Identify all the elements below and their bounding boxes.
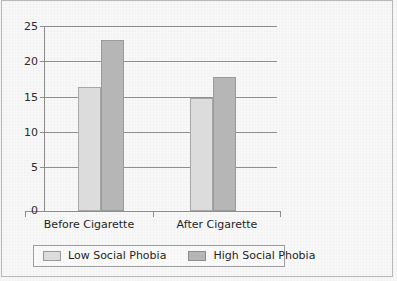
x-tick-mark-right: [280, 212, 281, 217]
bar-after-cigarette-high-social-phobia: [213, 77, 236, 211]
x-tick-mark-middle: [153, 212, 154, 217]
y-tick-label-10: 10: [4, 127, 38, 138]
y-tick-mark-5: [40, 167, 45, 168]
y-tick-label-5: 5: [4, 162, 38, 173]
gridline-25: [44, 26, 277, 27]
bar-before-cigarette-low-social-phobia: [78, 87, 101, 211]
y-tick-label-20: 20: [4, 56, 38, 67]
y-tick-mark-0: [40, 211, 45, 212]
legend-entry-high-social-phobia: High Social Phobia: [188, 250, 315, 262]
bar-before-cigarette-high-social-phobia: [101, 40, 124, 211]
y-tick-mark-20: [40, 61, 45, 62]
y-tick-mark-10: [40, 132, 45, 133]
y-tick-label-15: 15: [4, 92, 38, 103]
y-tick-mark-15: [40, 97, 45, 98]
x-axis-label-before-cigarette: Before Cigarette: [25, 218, 153, 231]
bar-after-cigarette-low-social-phobia: [190, 98, 213, 211]
legend-entry-low-social-phobia: Low Social Phobia: [43, 250, 166, 262]
y-tick-mark-25: [40, 26, 45, 27]
legend-swatch-low-social-phobia: [43, 251, 61, 261]
y-tick-label-0: 0: [4, 205, 38, 216]
x-axis-label-after-cigarette: After Cigarette: [153, 218, 281, 231]
y-tick-label-25: 25: [4, 21, 38, 32]
x-tick-mark-left: [25, 212, 26, 217]
chart-legend: Low Social Phobia High Social Phobia: [33, 245, 285, 267]
legend-label-low-social-phobia: Low Social Phobia: [68, 250, 166, 262]
chart-figure: 25 20 15 10 5 0 Before Cigarette After C…: [0, 0, 397, 281]
gridline-20: [44, 61, 277, 62]
legend-label-high-social-phobia: High Social Phobia: [213, 250, 315, 262]
legend-swatch-high-social-phobia: [188, 251, 206, 261]
y-axis-line: [44, 26, 45, 212]
plot-area: [44, 26, 277, 211]
